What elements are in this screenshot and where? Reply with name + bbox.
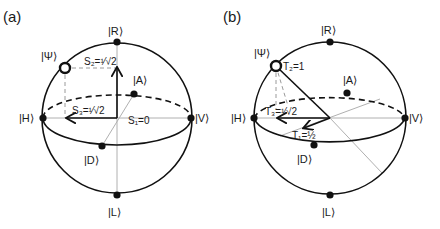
poincare-sphere-figure: (a) |R⟩ |L⟩ |H⟩ |V⟩ |D⟩ |A⟩ |Ψ⟩ (0, 0, 440, 229)
state-L-label: |L⟩ (108, 206, 121, 218)
state-H-point (39, 114, 46, 121)
panel-b: (b) |R⟩ |L⟩ |H⟩ |V⟩ |D⟩ |A⟩ |Ψ⟩ (223, 8, 423, 218)
t1-vector (304, 118, 330, 128)
s3-value-label: S₃=¹⁄√2 (72, 105, 105, 116)
state-A-point-b (343, 89, 350, 96)
state-L-label-b: |L⟩ (322, 206, 335, 218)
equator-front-b (254, 118, 405, 142)
panel-b-label: (b) (223, 8, 241, 25)
state-D-point (98, 142, 105, 149)
t2-value-label: T₂=1 (283, 61, 305, 72)
t3-value-label: T₃=¹⁄√2 (265, 106, 298, 117)
state-R-label-b: |R⟩ (321, 24, 336, 36)
panel-a-label: (a) (3, 8, 21, 25)
s1-value-label: S₁=0 (128, 115, 150, 126)
state-V-point (187, 114, 194, 121)
state-psi-label-b: |Ψ⟩ (254, 47, 270, 59)
state-A-point (130, 90, 137, 97)
panel-a: (a) |R⟩ |L⟩ |H⟩ |V⟩ |D⟩ |A⟩ |Ψ⟩ (3, 8, 209, 218)
state-R-label: |R⟩ (108, 25, 123, 37)
state-V-point-b (401, 114, 408, 121)
state-R-point-b (326, 38, 333, 45)
state-L-point-b (326, 191, 333, 198)
state-D-point-b (310, 141, 317, 148)
s2-value-label: S₂=¹⁄√2 (84, 56, 117, 67)
state-H-label: |H⟩ (19, 112, 34, 124)
state-R-point (113, 38, 120, 45)
state-V-label: |V⟩ (195, 112, 209, 124)
t1-value-label: T₁=½ (292, 130, 316, 141)
state-V-label-b: |V⟩ (409, 112, 423, 124)
state-D-label: |D⟩ (84, 154, 99, 166)
state-L-point (113, 191, 120, 198)
state-D-label-b: |D⟩ (297, 153, 312, 165)
state-H-point-b (250, 114, 257, 121)
state-H-label-b: |H⟩ (231, 112, 246, 124)
state-A-label: |A⟩ (133, 74, 147, 86)
state-psi-point-b (271, 61, 281, 71)
state-A-label-b: |A⟩ (343, 74, 357, 86)
t-axis-diagonal (330, 118, 382, 173)
state-psi-label: |Ψ⟩ (41, 50, 57, 62)
state-psi-point (60, 63, 70, 73)
